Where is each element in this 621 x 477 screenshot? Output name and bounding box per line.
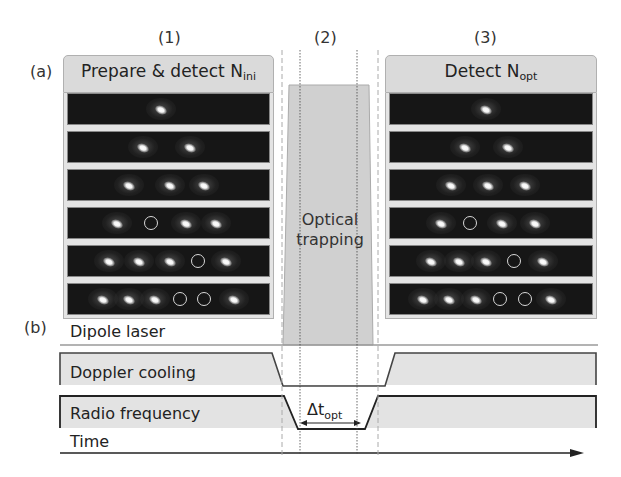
camera-frame	[67, 283, 270, 315]
stage3-frames	[385, 93, 597, 319]
vacancy-circle-icon	[191, 254, 205, 268]
delta-t-symbol: Δt	[307, 400, 324, 419]
vacancy-circle-icon	[144, 216, 158, 230]
stage1-panel: Prepare & detect Nini	[63, 55, 274, 319]
stage1-frames	[63, 93, 274, 319]
doppler-cooling-label: Doppler cooling	[70, 363, 196, 382]
vacancy-circle-icon	[507, 254, 521, 268]
delta-t-label: Δtopt	[307, 400, 342, 422]
vacancy-circle-icon	[493, 292, 507, 306]
camera-frame	[389, 245, 593, 277]
stage1-header: Prepare & detect Nini	[63, 55, 274, 93]
optical-trapping-line2: trapping	[288, 230, 372, 250]
camera-frame	[389, 283, 593, 315]
dipole-laser-label: Dipole laser	[70, 322, 165, 341]
camera-frame	[389, 207, 593, 239]
camera-frame	[389, 131, 593, 163]
camera-frame	[67, 169, 270, 201]
time-arrow-head-icon	[570, 449, 584, 457]
radio-frequency-label: Radio frequency	[70, 404, 200, 423]
stage1-title-sub: ini	[243, 70, 256, 83]
camera-frame	[67, 207, 270, 239]
camera-frame	[67, 93, 270, 125]
optical-trapping-line1: Optical	[288, 210, 372, 230]
delta-t-sub: opt	[324, 409, 342, 422]
vacancy-circle-icon	[197, 292, 211, 306]
vacancy-circle-icon	[173, 292, 187, 306]
camera-frame	[67, 245, 270, 277]
camera-frame	[389, 93, 593, 125]
vacancy-circle-icon	[518, 292, 532, 306]
stage3-title: Detect N	[445, 61, 520, 81]
stage3-panel: Detect Nopt	[385, 55, 597, 319]
stage3-title-sub: opt	[519, 70, 537, 83]
vacancy-circle-icon	[463, 216, 477, 230]
camera-frame	[389, 169, 593, 201]
camera-frame	[67, 131, 270, 163]
time-label: Time	[70, 432, 109, 451]
optical-trapping-label: Optical trapping	[288, 210, 372, 250]
stage1-title: Prepare & detect N	[81, 61, 243, 81]
stage3-header: Detect Nopt	[385, 55, 597, 93]
